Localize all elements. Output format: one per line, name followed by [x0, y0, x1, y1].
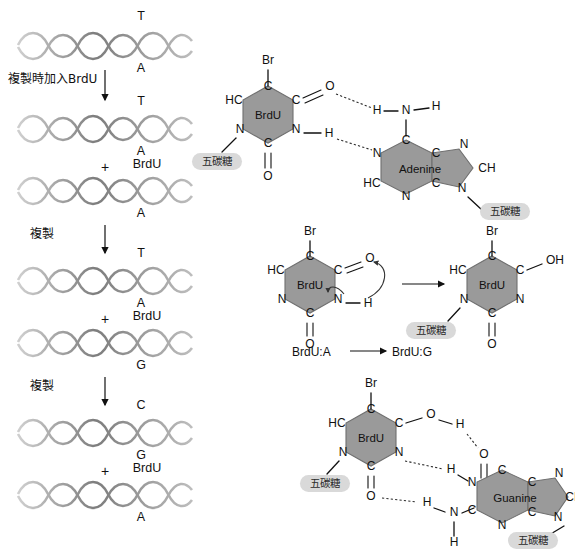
hbond-2-brdu-guanine	[405, 461, 443, 469]
guanine-atom-n7: N	[555, 466, 564, 480]
tautomer-right-sugar-bond	[448, 308, 460, 321]
adenine-ring-label: Adenine	[399, 163, 441, 175]
helix-gen3-b-bottom-label: A	[137, 510, 146, 524]
brdu-sugar-label: 五碳糖	[202, 155, 233, 167]
adenine-amine-n: N	[402, 103, 411, 117]
guanine-amine-n: N	[450, 505, 459, 519]
guanine-atom-c5: C	[528, 475, 537, 489]
brdu-oxygen-top: O	[325, 79, 334, 93]
helix-gen2-a-top-label: T	[137, 246, 145, 260]
helix-gen0	[18, 33, 192, 59]
helix-gen3-a	[18, 420, 192, 446]
adenine-atom-c6: C	[402, 133, 411, 147]
tautomer-right-ring-label: BrdU	[479, 279, 505, 291]
guanine-pair-brdu-c2: C	[367, 459, 376, 473]
helix-gen0-top-label: T	[137, 9, 145, 23]
left-panel-replication-series: T A 複製時加入BrdU T A + BrdU A 複製 T A +	[0, 0, 215, 556]
tautomer-right-atom-c4: C	[516, 263, 525, 277]
adenine-atom-n3: N	[402, 189, 411, 203]
tautomer-right-atom-c2: C	[488, 306, 497, 320]
hbond-3-brdu-guanine	[382, 498, 417, 502]
brdu-atom-n3: N	[292, 122, 301, 136]
plus-gen3: +	[101, 463, 109, 479]
hbond-2-brdu-adenine	[337, 139, 372, 150]
brdu-atom-c2: C	[264, 136, 273, 150]
brdu-atom-c4: C	[292, 93, 301, 107]
adenine-atom-n1: N	[373, 146, 382, 160]
guanine-ring-label: Guanine	[493, 492, 536, 504]
guanine-pair-brdu-n1: N	[339, 445, 348, 459]
helix-gen2-b	[18, 330, 192, 356]
adenine-sugar-bond	[468, 197, 482, 210]
helix-gen3-a-top-label: C	[136, 398, 145, 412]
tautomer-right-br: Br	[486, 224, 498, 238]
tautomer-left-atom-hc: HC	[267, 263, 285, 277]
adenine-atom-hc2: HC	[363, 176, 381, 190]
guanine-bridge-h-2: H	[423, 495, 432, 509]
tautomer-left-atom-c4: C	[334, 263, 343, 277]
guanine-oxygen: O	[479, 447, 488, 461]
helix-gen2-a	[18, 268, 192, 294]
guanine-pair-carbonyl-oxygen: O	[366, 489, 375, 503]
guanine-pair-brdu-hc: HC	[328, 416, 346, 430]
adenine-amine-h-right: H	[432, 99, 441, 113]
tautomer-caption: BrdU:A BrdU:G	[292, 340, 472, 364]
tautomer-left-atom-c5: C	[306, 249, 315, 263]
tautomer-left-atom-n3: N	[334, 292, 343, 306]
guanine-atom-c8h: CH	[565, 490, 575, 504]
guanine-nh-hydrogen: H	[447, 462, 456, 476]
adenine-n-h-right-bond	[414, 108, 429, 110]
brdu-guanine-pair: BrdU Br C HC N C N C O H O 五碳糖 O H N	[312, 368, 575, 556]
step-label-replication-1: 複製	[30, 226, 54, 241]
brdu-atom-c5: C	[264, 79, 273, 93]
guanine-amine-n-ring: N	[468, 475, 477, 489]
proton-shift-arrow-outer	[368, 262, 385, 298]
brdu-adenine-pair: BrdU Br C HC N C N C O O H 五碳糖 H N H	[196, 40, 575, 220]
plus-gen1: +	[101, 159, 109, 175]
guanine-pair-enol-h-bond	[439, 420, 452, 424]
guanine-amine-h: H	[450, 535, 459, 549]
tautomer-left-atom-c2: C	[306, 306, 315, 320]
adenine-atom-n7: N	[460, 137, 469, 151]
tautomer-right-atom-c5: C	[488, 249, 497, 263]
tautomer-right-atom-n3: N	[516, 292, 525, 306]
adenine-atom-c8h: CH	[478, 161, 495, 175]
helix-gen0-bottom-label: A	[137, 61, 146, 75]
guanine-pair-brdu-c5: C	[367, 402, 376, 416]
guanine-pair-bridge-h-1: H	[456, 417, 465, 431]
step-label-add-brdu: 複製時加入BrdU	[8, 71, 97, 86]
guanine-atom-n9: N	[554, 510, 563, 524]
guanine-pair-br-label: Br	[365, 376, 377, 390]
brdu-hydrogen: H	[325, 126, 334, 140]
brdu-ring-label: BrdU	[255, 109, 281, 121]
guanine-pair-brdu-sugar-bond	[327, 461, 339, 474]
tautomer-right-sugar-label: 五碳糖	[416, 324, 447, 336]
plus-gen2: +	[101, 311, 109, 327]
tautomer-left-br: Br	[304, 224, 316, 238]
guanine-pair-brdu-c4: C	[395, 416, 404, 430]
tautomer-left-ring-label: BrdU	[297, 279, 323, 291]
helix-gen1-b-bottom-label: A	[137, 206, 146, 220]
caption-brdu-a: BrdU:A	[292, 345, 331, 359]
guanine-pair-enol-bond	[406, 418, 422, 423]
helix-gen2-b-bottom-label: G	[136, 358, 146, 372]
adenine-atom-n9: N	[458, 181, 467, 195]
helix-gen2-b-top-label: BrdU	[133, 309, 161, 323]
guanine-pair-brdu-label: BrdU	[358, 432, 384, 444]
helix-gen3-a-bottom-label: G	[136, 448, 146, 462]
brdu-oxygen-bottom: O	[263, 169, 272, 183]
tautomer-right-atom-hc: HC	[449, 263, 467, 277]
guanine-pair-enol-oxygen: O	[426, 407, 435, 421]
helix-gen3-b-top-label: BrdU	[133, 461, 161, 475]
guanine-atom-c2: C	[468, 503, 477, 517]
guanine-sugar-label: 五碳糖	[518, 534, 549, 546]
tautomer-left-hydrogen: H	[364, 296, 373, 310]
guanine-n1-h-bond	[458, 475, 468, 481]
caption-brdu-g: BrdU:G	[392, 345, 432, 359]
brdu-sugar-bond	[222, 138, 236, 152]
adenine-amine-h-left: H	[373, 103, 382, 117]
helix-gen1-a-bottom-label: A	[137, 144, 146, 158]
adenine-atom-c4: C	[432, 176, 441, 190]
brdu-atom-n1: N	[236, 122, 245, 136]
helix-gen1-a-top-label: T	[137, 94, 145, 108]
